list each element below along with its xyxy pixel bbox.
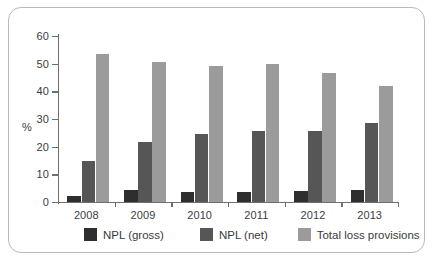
y-axis-tick-label: 10 xyxy=(37,168,49,180)
bar-group xyxy=(181,36,223,202)
x-axis-tick-label: 2011 xyxy=(244,209,268,221)
y-axis-tick xyxy=(52,147,58,148)
legend-swatch xyxy=(298,228,311,241)
x-axis-tick-label: 2013 xyxy=(357,209,382,221)
bar[interactable] xyxy=(379,86,393,202)
bar[interactable] xyxy=(308,131,322,202)
y-axis-tick-label: 60 xyxy=(37,30,49,42)
bar[interactable] xyxy=(124,190,138,202)
y-axis-tick xyxy=(52,36,58,37)
bar[interactable] xyxy=(351,190,365,202)
bar[interactable] xyxy=(138,142,152,202)
chart-legend: NPL (gross)NPL (net)Total loss provision… xyxy=(58,228,403,241)
bar[interactable] xyxy=(67,196,81,202)
y-axis-tick xyxy=(52,64,58,65)
bar[interactable] xyxy=(96,54,110,202)
y-axis-tick-label: 20 xyxy=(37,141,49,153)
legend-label: NPL (gross) xyxy=(103,229,164,241)
bar[interactable] xyxy=(294,191,308,202)
y-axis-label: % xyxy=(22,121,32,133)
bar-group xyxy=(351,36,393,202)
bar[interactable] xyxy=(322,73,336,202)
y-axis-tick xyxy=(52,202,58,203)
legend-item[interactable]: NPL (net) xyxy=(200,228,268,241)
legend-label: NPL (net) xyxy=(219,229,268,241)
x-axis-tick xyxy=(341,202,342,207)
legend-swatch xyxy=(84,228,97,241)
bar[interactable] xyxy=(365,123,379,202)
bar-group xyxy=(294,36,336,202)
y-axis-tick-label: 50 xyxy=(37,58,49,70)
bar[interactable] xyxy=(266,64,280,202)
bar[interactable] xyxy=(181,192,195,202)
bar[interactable] xyxy=(195,134,209,202)
plot-area: 0102030405060 xyxy=(58,36,398,202)
x-axis-tick-label: 2008 xyxy=(74,209,99,221)
x-axis-tick xyxy=(115,202,116,207)
x-axis-tick xyxy=(398,202,399,207)
x-axis-tick xyxy=(285,202,286,207)
x-axis-tick-label: 2012 xyxy=(301,209,326,221)
x-axis-tick xyxy=(171,202,172,207)
bar[interactable] xyxy=(237,192,251,203)
legend-item[interactable]: NPL (gross) xyxy=(84,228,164,241)
x-axis-tick-label: 2009 xyxy=(131,209,156,221)
x-axis-tick-label: 2010 xyxy=(187,209,212,221)
bar-group xyxy=(124,36,166,202)
legend-item[interactable]: Total loss provisions xyxy=(298,228,420,241)
bar[interactable] xyxy=(209,66,223,202)
y-axis-tick xyxy=(52,91,58,92)
y-axis-tick-label: 0 xyxy=(43,196,49,208)
bar[interactable] xyxy=(82,161,96,203)
y-axis-tick xyxy=(52,119,58,120)
y-axis-tick-label: 40 xyxy=(37,85,49,97)
bar[interactable] xyxy=(252,131,266,202)
y-axis-tick xyxy=(52,174,58,175)
legend-swatch xyxy=(200,228,213,241)
bar-group xyxy=(237,36,279,202)
bar[interactable] xyxy=(152,62,166,202)
y-axis-tick-label: 30 xyxy=(37,113,49,125)
x-axis-tick xyxy=(228,202,229,207)
bar-group xyxy=(67,36,109,202)
legend-label: Total loss provisions xyxy=(317,229,420,241)
chart-figure: % 0102030405060 NPL (gross)NPL (net)Tota… xyxy=(0,0,433,261)
